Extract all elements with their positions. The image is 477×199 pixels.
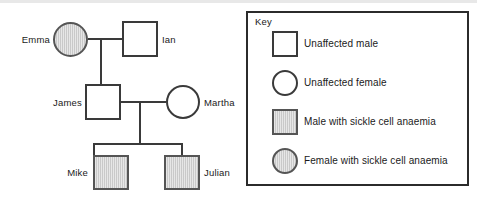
pedigree-label-emma: Emma — [0, 35, 50, 45]
pedigree-symbol-mike — [93, 155, 129, 190]
image-top-edge — [0, 0, 477, 3]
pedigree-chart-figure: Emma Ian James Martha Mike Julian Key Un… — [0, 0, 477, 199]
pedigree-symbol-ian — [122, 21, 158, 57]
pedigree-symbol-emma — [53, 22, 88, 57]
mating-line-james-martha — [121, 101, 166, 103]
legend-label-affected-male: Male with sickle cell anaemia — [304, 117, 436, 127]
pedigree-label-james: James — [32, 98, 82, 108]
pedigree-label-mike: Mike — [40, 168, 88, 178]
legend-label-unaffected-male: Unaffected male — [304, 39, 378, 49]
legend-symbol-unaffected-male — [272, 31, 298, 57]
mating-line-emma-ian — [88, 38, 122, 40]
pedigree-symbol-julian — [164, 155, 200, 190]
legend-label-affected-female: Female with sickle cell anaemia — [304, 156, 448, 166]
pedigree-label-ian: Ian — [162, 35, 176, 45]
pedigree-symbol-james — [85, 84, 121, 120]
descent-line-generation-1 — [100, 38, 102, 85]
pedigree-symbol-martha — [166, 85, 200, 119]
legend-title: Key — [255, 17, 272, 27]
legend-symbol-unaffected-female — [272, 70, 298, 96]
legend-symbol-affected-female — [272, 148, 298, 174]
legend-label-unaffected-female: Unaffected female — [304, 78, 387, 88]
pedigree-label-julian: Julian — [204, 168, 230, 178]
descent-line-generation-2 — [139, 101, 141, 144]
pedigree-label-martha: Martha — [204, 98, 235, 108]
legend-symbol-affected-male — [272, 109, 298, 135]
sibship-line — [93, 143, 183, 145]
